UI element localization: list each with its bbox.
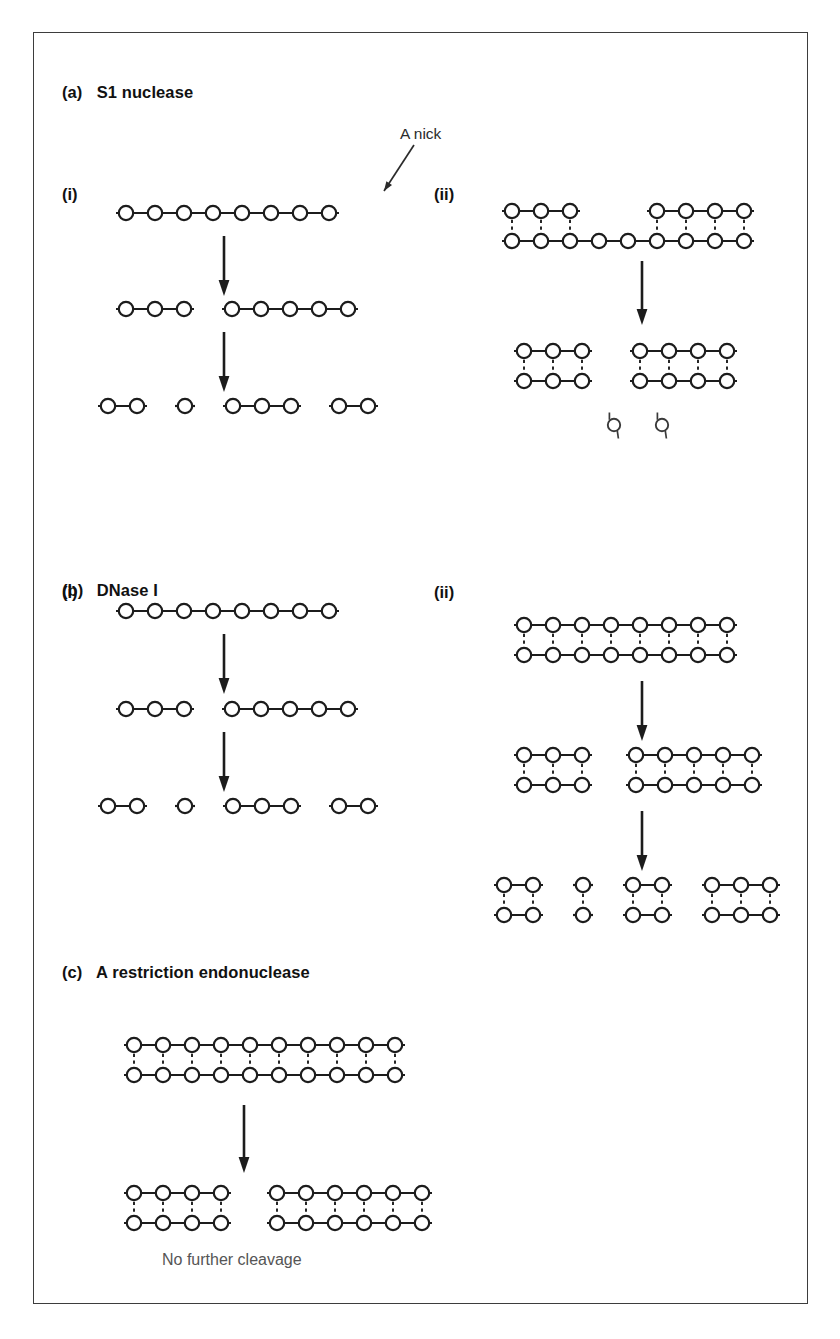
nick-callout-arrow [384,145,414,191]
nucleotide-circle [655,908,669,922]
nucleotide-circle [720,374,734,388]
nucleotide-circle [745,748,759,762]
dna-duplex-segment [626,748,762,792]
nucleotide-circle [226,399,240,413]
nucleotide-circle [505,234,519,248]
nucleotide-circle [330,1068,344,1082]
reaction-arrow [637,261,648,325]
dna-strand-segment [222,302,358,316]
dna-strand-bottom [702,908,780,922]
nucleotide-circle [763,878,777,892]
free-nucleotide [608,413,620,439]
nucleotide-circle [177,702,191,716]
nucleotide-circle [592,234,606,248]
dna-strand-bottom [573,908,593,922]
nucleotide-circle [691,618,705,632]
nucleotide-circle [322,206,336,220]
dna-strand-segment [329,399,378,413]
nucleotide-circle [655,878,669,892]
nucleotide-circle [127,1186,141,1200]
nucleotide-circle [650,234,664,248]
nucleotide-circle [563,234,577,248]
nucleotide-circle [359,1038,373,1052]
nucleotide-circle [708,204,722,218]
nucleotide-circle [658,748,672,762]
dna-duplex-segment [514,344,592,388]
nucleotide-circle [691,344,705,358]
nucleotide-circle [576,908,590,922]
panel-label-a-i: (i) [62,185,78,204]
nucleotide-circle [546,648,560,662]
nucleotide-circle [716,748,730,762]
nucleotide-circle [629,748,643,762]
nucleotide-circle [148,702,162,716]
nucleotide-circle [604,648,618,662]
nucleotide-stub-bottom [665,430,666,438]
dna-strand-bottom [630,374,737,388]
no-further-cleavage-caption: No further cleavage [162,1251,302,1269]
dna-diagram-canvas [34,33,809,1305]
nucleotide-circle [662,374,676,388]
dna-strand-bottom [514,648,737,662]
nucleotide-circle [328,1186,342,1200]
nucleotide-circle [177,302,191,316]
nucleotide-circle [526,908,540,922]
nucleotide-circle [662,618,676,632]
nucleotide-circle [293,604,307,618]
nucleotide-circle [206,604,220,618]
nucleotide-circle [322,604,336,618]
nucleotide-circle [546,344,560,358]
nucleotide-circle [357,1186,371,1200]
nucleotide-circle [679,204,693,218]
dna-strand-bottom [267,1216,432,1230]
nucleotide-circle [691,648,705,662]
nucleotide-circle [705,878,719,892]
nucleotide-circle [388,1038,402,1052]
nucleotide-circle [608,419,620,431]
nucleotide-stub-bottom [617,430,618,438]
nucleotide-circle [386,1186,400,1200]
nucleotide-circle [534,204,548,218]
diagram-b-ii [494,618,780,922]
nucleotide-circle [101,399,115,413]
nucleotide-circle [293,206,307,220]
reaction-arrow [239,1105,250,1173]
dna-strand-top [573,878,593,892]
nucleotide-circle [283,302,297,316]
dna-strand-segment [116,604,339,618]
dna-strand-bottom [124,1068,405,1082]
nucleotide-circle [361,399,375,413]
callout-head [384,181,392,191]
nucleotide-circle [270,1216,284,1230]
nucleotide-circle [415,1186,429,1200]
dna-strand-top [630,344,737,358]
nucleotide-circle [575,618,589,632]
nucleotide-circle [546,374,560,388]
nucleotide-circle [272,1038,286,1052]
nucleotide-circle [214,1038,228,1052]
panel-label-b-ii: (ii) [434,583,454,602]
nucleotide-circle [517,648,531,662]
nucleotide-circle [235,604,249,618]
dna-strand-top [514,344,592,358]
dna-strand-segment [175,399,195,413]
nicked-duplex [502,204,754,248]
diagram-a-i [98,206,378,413]
nucleotide-circle [284,399,298,413]
nucleotide-circle [546,618,560,632]
section-tag-c: (c) [62,963,92,982]
nucleotide-circle [497,908,511,922]
nucleotide-circle [127,1216,141,1230]
nucleotide-circle [130,799,144,813]
nucleotide-circle [517,778,531,792]
nucleotide-circle [119,702,133,716]
nucleotide-circle [626,878,640,892]
nucleotide-circle [737,234,751,248]
dna-strand-segment [116,702,194,716]
diagram-b-i [98,604,378,813]
nucleotide-circle [656,419,668,431]
dna-duplex-segment [630,344,737,388]
nucleotide-circle [388,1068,402,1082]
callout-shaft [384,145,414,191]
arrow-head [219,376,230,392]
